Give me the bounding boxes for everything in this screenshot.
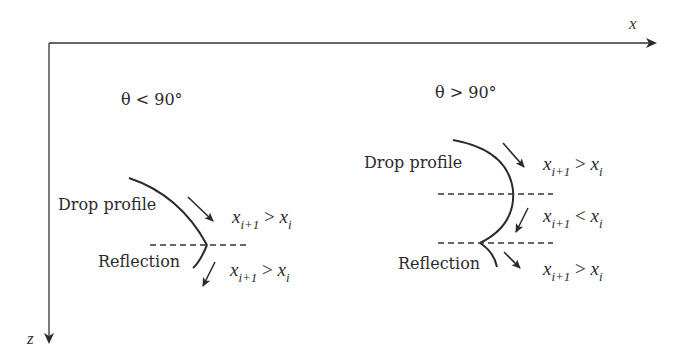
x-axis-label: x [629, 14, 637, 34]
left-upper-relation: xi+1 > xi [232, 207, 292, 231]
left-lower-relation: xi+1 > xi [230, 260, 290, 284]
left-drop-profile-label: Drop profile [58, 197, 156, 213]
left-condition-label: θ < 90° [121, 92, 183, 108]
left-upper-arrow-icon [188, 197, 213, 221]
z-axis-label: z [27, 329, 34, 349]
left-reflection-curve [193, 245, 207, 268]
right-reflection-label: Reflection [398, 256, 480, 272]
right-middle-relation: xi+1 < xi [543, 206, 603, 230]
right-reflection-curve [480, 243, 497, 267]
right-upper-relation: xi+1 > xi [543, 154, 603, 178]
left-reflection-label: Reflection [98, 254, 180, 270]
right-lower-arrow-icon [504, 252, 520, 268]
right-lower-relation: xi+1 > xi [543, 259, 603, 283]
right-drop-profile-label: Drop profile [364, 155, 462, 171]
diagram-canvas [0, 0, 675, 359]
left-lower-arrow-icon [203, 262, 215, 286]
right-middle-arrow-icon [516, 208, 528, 232]
right-upper-arrow-icon [503, 143, 524, 167]
right-condition-label: θ > 90° [435, 85, 497, 101]
